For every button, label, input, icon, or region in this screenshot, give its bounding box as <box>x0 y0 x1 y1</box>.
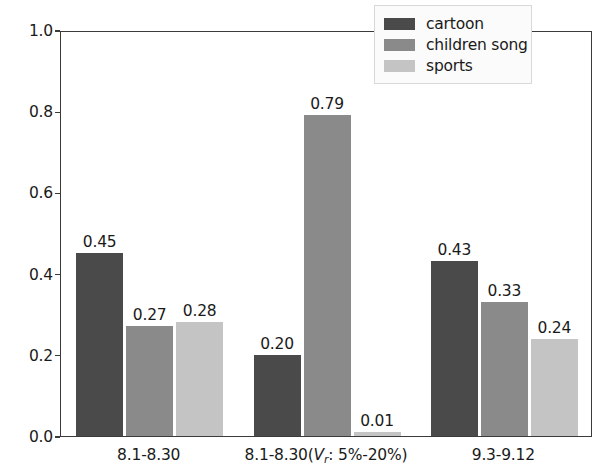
x-axis-tick-label: 9.3-9.12 <box>375 446 611 464</box>
legend-color-swatch <box>384 18 415 30</box>
y-axis-tick-label: 0.4 <box>5 266 53 284</box>
legend-color-swatch <box>384 60 415 72</box>
legend-item[interactable]: children song <box>384 34 522 55</box>
bar <box>481 302 528 436</box>
bar <box>431 261 478 436</box>
plot-area: 0.450.270.280.200.790.010.430.330.24 <box>60 31 592 437</box>
legend-item[interactable]: cartoon <box>384 13 522 34</box>
legend-label: children song <box>426 36 528 54</box>
y-axis-tick-label: 1.0 <box>5 22 53 40</box>
bar-value-label: 0.24 <box>525 319 584 337</box>
bar <box>76 253 123 436</box>
legend-label: sports <box>426 57 473 75</box>
y-axis-tick-label: 0.0 <box>5 428 53 446</box>
bar-value-label: 0.45 <box>70 233 129 251</box>
bar <box>304 115 351 436</box>
bar <box>254 355 301 436</box>
legend-color-swatch <box>384 39 415 51</box>
legend: cartoonchildren songsports <box>374 5 532 84</box>
bar-value-label: 0.43 <box>425 241 484 259</box>
bar <box>354 432 401 436</box>
bar <box>531 339 578 436</box>
bar-value-label: 0.01 <box>348 412 407 430</box>
y-axis-tick-label: 0.6 <box>5 184 53 202</box>
bar-value-label: 0.33 <box>475 282 534 300</box>
bar-value-label: 0.79 <box>298 95 357 113</box>
legend-label: cartoon <box>426 15 484 33</box>
legend-item[interactable]: sports <box>384 55 522 76</box>
bar <box>176 322 223 436</box>
bar-value-label: 0.28 <box>170 302 229 320</box>
y-axis-tick-label: 0.2 <box>5 347 53 365</box>
bar <box>126 326 173 436</box>
bar-value-label: 0.20 <box>248 335 307 353</box>
y-axis-tick-label: 0.8 <box>5 103 53 121</box>
figure-canvas: 0.00.20.40.60.81.0 0.450.270.280.200.790… <box>0 0 611 476</box>
